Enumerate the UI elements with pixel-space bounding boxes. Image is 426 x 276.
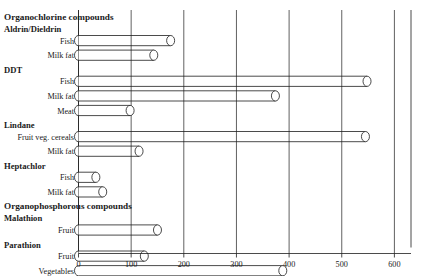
bar-end-cap [135, 146, 143, 156]
bar-end-cap [167, 36, 175, 46]
bar-body [75, 132, 366, 142]
x-axis-tick-label: 600 [388, 260, 400, 269]
item-label: Vegetables [39, 267, 74, 276]
x-axis-tick-label: 200 [178, 260, 190, 269]
group-label: DDT [4, 65, 22, 75]
item-label: Milk fat [47, 92, 74, 101]
bar [75, 146, 144, 156]
x-axis-tick-label: 500 [336, 260, 348, 269]
group-label: Lindane [4, 120, 35, 130]
bar-body [75, 91, 276, 101]
bar [75, 91, 280, 101]
bar-body [75, 146, 140, 156]
bar-body [75, 50, 154, 60]
bar-end-cap [140, 251, 148, 261]
item-label: Fruit [58, 226, 75, 235]
section-heading: Organophosphorous compounds [4, 201, 132, 211]
bar [75, 105, 135, 115]
section-heading: Organochlorine compounds [4, 12, 114, 22]
bar [75, 76, 372, 86]
group-label: Aldrin/Dieldrin [4, 24, 62, 34]
category-labels-layer: Organochlorine compoundsAldrin/DieldrinF… [4, 12, 132, 276]
group-label: Parathion [4, 240, 41, 250]
item-label: Fish [60, 77, 74, 86]
item-label: Fruit [58, 252, 75, 261]
bar-end-cap [150, 50, 158, 60]
bar [75, 132, 370, 142]
item-label: Milk fat [47, 188, 74, 197]
x-axis-tick-label: 100 [125, 260, 137, 269]
item-label: Fish [60, 37, 74, 46]
group-label: Malathion [4, 213, 42, 223]
bar [75, 225, 162, 235]
bar-end-cap [153, 225, 161, 235]
item-label: Fruit veg. cereals [17, 133, 74, 142]
bar-end-cap [363, 76, 371, 86]
bar-body [75, 76, 368, 86]
bar-body [75, 36, 171, 46]
item-label: Fish [60, 173, 74, 182]
x-axis-tick-label: 0 [76, 260, 80, 269]
bar-end-cap [126, 105, 134, 115]
bars-layer [75, 36, 372, 276]
bar [75, 172, 100, 182]
item-label: Meat [57, 107, 75, 116]
item-label: Milk fat [47, 147, 74, 156]
bar-body [75, 225, 158, 235]
group-label: Heptachlor [4, 161, 46, 171]
x-axis-tick-label: 400 [283, 260, 295, 269]
bar-end-cap [361, 132, 369, 142]
pesticide-residue-bar-chart: Organochlorine compoundsAldrin/DieldrinF… [0, 0, 426, 276]
bar-end-cap [99, 187, 107, 197]
item-label: Milk fat [47, 51, 74, 60]
bar [75, 36, 175, 46]
bar [75, 187, 107, 197]
x-axis-tick-label: 300 [230, 260, 242, 269]
bar [75, 50, 158, 60]
bar-end-cap [92, 172, 100, 182]
x-axis-layer: 0100200300400500600 [76, 254, 411, 269]
bar-end-cap [271, 91, 279, 101]
bar-body [75, 105, 131, 115]
